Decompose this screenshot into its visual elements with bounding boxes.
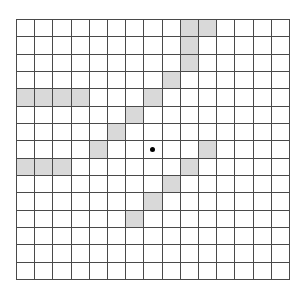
grid-cell	[271, 54, 289, 71]
grid-cell	[198, 227, 216, 244]
grid-cell	[180, 175, 198, 192]
grid-cell	[271, 123, 289, 140]
grid-cell	[71, 175, 89, 192]
grid-cell	[162, 36, 180, 53]
grid-cell	[16, 244, 34, 261]
grid-cell	[198, 36, 216, 53]
grid-cell	[180, 227, 198, 244]
grid-cell	[52, 36, 70, 53]
grid-cell	[125, 244, 143, 261]
grid-cell	[253, 262, 271, 279]
grid-cell	[143, 262, 161, 279]
grid-cell	[52, 106, 70, 123]
grid-cell	[253, 227, 271, 244]
grid-cell	[271, 227, 289, 244]
grid-cell	[16, 227, 34, 244]
grid-cell	[125, 158, 143, 175]
grid-cell	[34, 192, 52, 209]
grid-cell	[271, 71, 289, 88]
grid-cell	[234, 175, 252, 192]
grid-cell	[271, 175, 289, 192]
grid-cell-shaded	[162, 175, 180, 192]
grid-cell	[162, 227, 180, 244]
grid-cell	[34, 140, 52, 157]
grid-cell	[271, 262, 289, 279]
grid-cell	[107, 210, 125, 227]
grid-cell	[271, 106, 289, 123]
grid-cell	[143, 227, 161, 244]
grid-cell	[107, 140, 125, 157]
grid-cell	[234, 158, 252, 175]
grid-cell	[234, 262, 252, 279]
grid-cell-shaded	[198, 140, 216, 157]
grid-cell	[162, 192, 180, 209]
grid-cell	[216, 227, 234, 244]
grid-cell	[253, 210, 271, 227]
grid-cell	[16, 175, 34, 192]
grid-cell	[107, 192, 125, 209]
grid-cell	[125, 36, 143, 53]
grid-cell	[107, 227, 125, 244]
grid-cell	[198, 210, 216, 227]
grid-cell	[125, 19, 143, 36]
grid-cell	[125, 123, 143, 140]
grid-cell	[216, 106, 234, 123]
grid-cell	[89, 175, 107, 192]
grid-cell	[162, 19, 180, 36]
grid-cell	[89, 19, 107, 36]
grid-cell	[253, 71, 271, 88]
grid-cell	[143, 123, 161, 140]
grid-cell	[253, 19, 271, 36]
grid-cell	[180, 71, 198, 88]
grid-cell-shaded	[16, 158, 34, 175]
grid-cell	[89, 71, 107, 88]
grid-cell	[16, 106, 34, 123]
grid-cell	[253, 140, 271, 157]
grid-cell	[71, 106, 89, 123]
grid-cell	[234, 71, 252, 88]
grid-cell	[180, 262, 198, 279]
grid-cell	[71, 244, 89, 261]
grid-cell	[125, 262, 143, 279]
grid-cell	[180, 106, 198, 123]
grid-cell	[271, 192, 289, 209]
grid-cell	[16, 192, 34, 209]
grid-cell	[34, 71, 52, 88]
grid-cell	[52, 71, 70, 88]
grid-cell	[89, 123, 107, 140]
grid-cell-shaded	[143, 192, 161, 209]
grid-cell	[16, 262, 34, 279]
grid-cell	[52, 227, 70, 244]
grid-cell	[271, 158, 289, 175]
grid-cell	[162, 210, 180, 227]
grid-cell	[125, 54, 143, 71]
grid-cell	[107, 88, 125, 105]
grid-cell	[216, 88, 234, 105]
grid-cell	[107, 19, 125, 36]
grid-cell	[234, 19, 252, 36]
grid-cell	[89, 54, 107, 71]
grid-cell	[271, 36, 289, 53]
grid-cell	[16, 210, 34, 227]
grid-cell	[253, 88, 271, 105]
grid-cell	[234, 140, 252, 157]
grid	[16, 19, 290, 280]
grid-cell	[216, 175, 234, 192]
grid-cell	[253, 54, 271, 71]
grid-cell	[34, 244, 52, 261]
grid-cell	[180, 123, 198, 140]
grid-cell	[143, 210, 161, 227]
grid-cell	[34, 54, 52, 71]
grid-cell	[271, 244, 289, 261]
grid-cell	[234, 54, 252, 71]
grid-cell	[216, 244, 234, 261]
grid-cell	[34, 175, 52, 192]
grid-cell	[71, 36, 89, 53]
grid-cell	[16, 123, 34, 140]
grid-cell	[253, 192, 271, 209]
grid-cell-shaded	[180, 19, 198, 36]
grid-cell	[253, 158, 271, 175]
grid-cell	[125, 140, 143, 157]
grid-cell	[34, 19, 52, 36]
grid-cell	[271, 88, 289, 105]
